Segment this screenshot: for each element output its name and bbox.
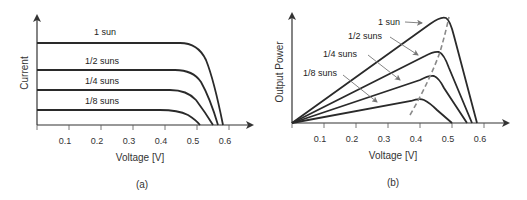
curve-label-half-sun: 1/2 suns (85, 56, 120, 66)
y-axis-title: Output Power (274, 41, 285, 103)
arrow-1-sun (405, 22, 422, 23)
figure: 0.1 0.2 0.3 0.4 0.5 0.6 Voltage [V] Curr… (0, 0, 527, 200)
x-ticks (37, 125, 229, 130)
x-axis-title: Voltage [V] (369, 150, 418, 161)
x-tick-label: 0.4 (155, 136, 168, 146)
x-tick-label: 0.6 (219, 136, 232, 146)
curve-label-quarter-sun: 1/4 suns (323, 49, 358, 59)
x-tick-label: 0.2 (91, 136, 104, 146)
curve-label-eighth-sun: 1/8 suns (85, 96, 120, 106)
x-tick-label: 0.4 (410, 134, 423, 144)
panel-label-b: (b) (387, 177, 399, 188)
curve-eighth-sun (37, 110, 200, 125)
x-ticks (292, 123, 484, 128)
curve-half-sun (292, 52, 472, 123)
curve-label-half-sun: 1/2 suns (348, 31, 383, 41)
panel-label-a: (a) (136, 179, 148, 190)
x-tick-label: 0.6 (474, 134, 487, 144)
x-tick-label: 0.5 (187, 136, 200, 146)
curve-quarter-sun (292, 76, 467, 123)
curve-label-quarter-sun: 1/4 suns (85, 76, 120, 86)
x-tick-label: 0.1 (59, 136, 72, 146)
x-axis-title: Voltage [V] (116, 152, 165, 163)
curve-quarter-sun (37, 90, 213, 125)
curve-1-sun (37, 43, 223, 125)
x-tick-label: 0.3 (123, 136, 136, 146)
x-tick-label: 0.2 (346, 134, 359, 144)
x-tick-label: 0.1 (314, 134, 327, 144)
panel-a: 0.1 0.2 0.3 0.4 0.5 0.6 Voltage [V] Curr… (19, 16, 252, 190)
panel-b: 0.1 0.2 0.3 0.4 0.5 0.6 Voltage [V] Outp… (274, 14, 508, 188)
curve-label-1-sun: 1 sun (94, 27, 116, 37)
arrow-eighth-sun (343, 75, 377, 102)
x-tick-label: 0.5 (442, 134, 455, 144)
arrow-half-sun (390, 37, 418, 55)
curve-label-eighth-sun: 1/8 suns (303, 68, 338, 78)
x-tick-label: 0.3 (378, 134, 391, 144)
iv-curves (37, 43, 223, 125)
y-axis-title: Current (19, 56, 30, 90)
curve-label-1-sun: 1 sun (378, 17, 400, 27)
